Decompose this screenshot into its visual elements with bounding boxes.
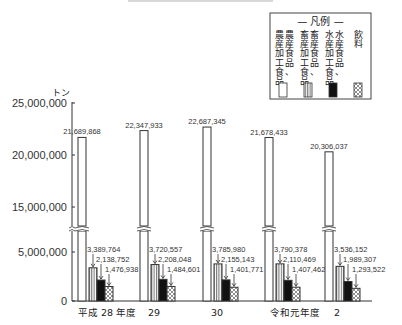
bar <box>344 282 352 301</box>
bar-value-label: 3,389,764 <box>87 245 120 254</box>
bar <box>336 266 344 301</box>
bar <box>292 287 300 301</box>
bar-value-label: 3,536,152 <box>334 245 367 254</box>
bar-value-label: 21,678,433 <box>250 128 288 137</box>
bar <box>78 137 86 226</box>
bar-value-label: 2,155,143 <box>221 255 254 264</box>
bar-value-label: 3,785,980 <box>212 245 245 254</box>
bar <box>276 264 284 301</box>
bar-value-label: 2,138,752 <box>96 255 129 264</box>
bar <box>89 268 97 301</box>
bar-value-label: 22,687,345 <box>188 117 226 126</box>
cut-off-title <box>128 0 273 2</box>
bar <box>151 265 159 301</box>
bar <box>105 287 113 301</box>
bar <box>140 131 148 226</box>
bar-value-label: 20,306,037 <box>310 142 348 151</box>
x-category-label: 平成 28 年度 <box>78 307 136 318</box>
bar-value-label: 1,293,522 <box>352 265 385 274</box>
bar-value-label: 2,208,048 <box>158 255 191 264</box>
bar <box>159 279 167 301</box>
bar <box>325 231 333 301</box>
legend: — 凡例 — 農産加工食品農産食品、畜産加工食品畜産食品、水産加工食品水産食品、… <box>270 13 371 99</box>
x-category-label: 2 <box>334 307 340 318</box>
bar-value-label: 3,720,557 <box>149 245 182 254</box>
bars: 21,689,8683,389,7642,138,7521,476,93822,… <box>63 117 385 301</box>
bar <box>325 152 333 226</box>
bar-value-label: 1,476,938 <box>105 265 138 274</box>
legend-swatch <box>354 83 362 97</box>
bar <box>78 231 86 301</box>
bar-chart: — 凡例 — 農産加工食品農産食品、畜産加工食品畜産食品、水産加工食品水産食品、… <box>0 0 402 325</box>
legend-label: 、 <box>335 67 344 77</box>
bar <box>230 287 238 301</box>
bar-value-label: 2,110,469 <box>283 255 316 264</box>
y-tick-label: 25,000,000 <box>12 97 67 109</box>
bar-group: 21,678,4333,790,3782,110,4691,407,462 <box>250 128 325 301</box>
bar <box>352 288 360 301</box>
x-category-label: 29 <box>148 307 160 318</box>
bar <box>284 280 292 301</box>
x-category-label: 30 <box>211 307 223 318</box>
legend-label: 、 <box>310 67 319 77</box>
legend-label: 、 <box>285 67 294 77</box>
bar <box>203 231 211 301</box>
bar <box>97 280 105 301</box>
legend-label: 料 <box>354 38 363 49</box>
bar-group: 20,306,0373,536,1521,989,3071,293,522 <box>310 142 385 301</box>
bar-value-label: 1,401,771 <box>230 265 263 274</box>
bar <box>214 264 222 301</box>
bar-value-label: 1,407,462 <box>292 265 325 274</box>
bar-group: 21,689,8683,389,7642,138,7521,476,938 <box>63 127 138 301</box>
legend-swatch <box>329 83 337 97</box>
y-tick-label: 5,000,000 <box>18 246 67 258</box>
bar <box>265 138 273 226</box>
bar <box>140 231 148 301</box>
legend-swatch <box>279 83 287 97</box>
y-tick-label: 20,000,000 <box>12 149 67 161</box>
x-axis-labels: 平成 28 年度2930令和元年度2 <box>78 307 340 318</box>
bar-value-label: 21,689,868 <box>63 127 101 136</box>
x-category-label: 令和元年度 <box>270 307 320 318</box>
bar-value-label: 1,989,307 <box>343 255 376 264</box>
y-tick-label: 0 <box>61 295 67 307</box>
y-tick-label: 15,000,000 <box>12 201 67 213</box>
bar <box>222 280 230 301</box>
bar-value-label: 22,347,933 <box>125 121 163 130</box>
bar <box>203 127 211 226</box>
bar <box>167 286 175 301</box>
bar-value-label: 1,484,601 <box>167 265 200 274</box>
legend-swatch <box>304 83 312 97</box>
legend-title: — 凡例 — <box>297 15 343 27</box>
bar <box>265 231 273 301</box>
bar-value-label: 3,790,378 <box>274 245 307 254</box>
